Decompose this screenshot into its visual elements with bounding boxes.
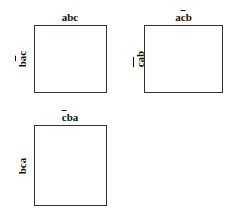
label-overlined-text: a xyxy=(16,56,28,62)
label-text: bca xyxy=(16,158,28,175)
panel-3-side-label: bca xyxy=(16,146,28,186)
label-text: abc xyxy=(62,11,79,23)
panel-2-box xyxy=(144,25,223,93)
panel-1-box xyxy=(34,25,107,93)
label-text: c xyxy=(16,51,28,56)
panel-1-side-label: bac xyxy=(16,39,28,79)
panel-3-box xyxy=(34,125,107,206)
label-text: b xyxy=(186,11,192,23)
panel-1-top-label: abc xyxy=(34,11,106,23)
panel-3-top-label: cba xyxy=(34,111,106,123)
panel-2-top-label: acb xyxy=(144,11,223,23)
label-text: b xyxy=(16,61,28,67)
label-text: ba xyxy=(67,111,79,123)
